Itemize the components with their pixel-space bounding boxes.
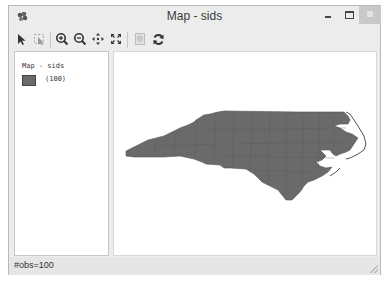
close-button[interactable]	[359, 6, 381, 24]
map-window: Map - sids	[8, 5, 381, 275]
refresh-icon	[152, 33, 165, 46]
zoom-in-button[interactable]	[54, 31, 70, 47]
minimize-button[interactable]	[317, 6, 339, 24]
zoom-in-icon	[55, 32, 69, 46]
observation-count: #obs=100	[14, 260, 54, 270]
status-bar: #obs=100	[9, 257, 380, 275]
layer-properties-button[interactable]	[132, 31, 148, 47]
title-bar[interactable]: Map - sids	[9, 6, 380, 28]
full-extent-button[interactable]	[108, 31, 124, 47]
legend-item-count: (100)	[45, 75, 66, 83]
pan-icon	[91, 32, 105, 46]
select-tool-button[interactable]	[14, 31, 30, 47]
pan-button[interactable]	[90, 31, 106, 47]
select-region-icon	[33, 33, 45, 46]
select-region-button[interactable]	[31, 31, 47, 47]
legend-title: Map - sids	[22, 62, 64, 70]
layer-icon	[134, 32, 146, 46]
north-carolina-map[interactable]	[114, 52, 378, 257]
refresh-button[interactable]	[150, 31, 166, 47]
full-extent-icon	[109, 32, 123, 46]
toolbar	[9, 29, 380, 51]
toolbar-separator	[50, 32, 51, 48]
zoom-out-button[interactable]	[72, 31, 88, 47]
arrow-pointer-icon	[16, 33, 28, 46]
map-canvas[interactable]	[113, 51, 377, 256]
maximize-button[interactable]	[339, 6, 359, 24]
zoom-out-icon	[73, 32, 87, 46]
toolbar-separator	[127, 32, 128, 48]
resize-grip[interactable]	[370, 265, 378, 273]
legend-pane[interactable]: Map - sids (100)	[14, 51, 109, 256]
legend-swatch[interactable]	[22, 75, 36, 86]
